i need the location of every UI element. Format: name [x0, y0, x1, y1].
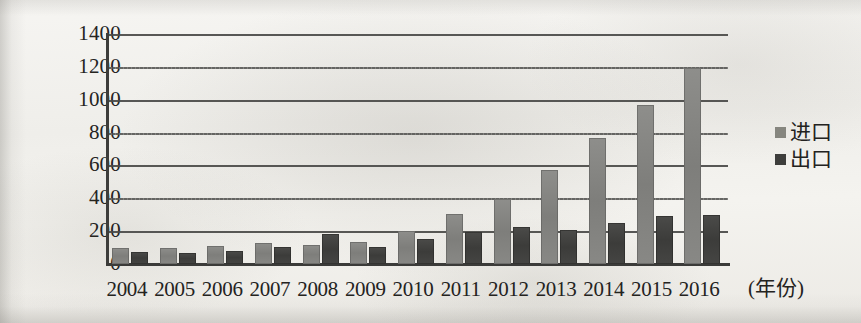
bar-export-2011[interactable]: [465, 232, 482, 264]
bar-export-2006[interactable]: [226, 251, 243, 264]
bar-import-2006[interactable]: [207, 246, 224, 264]
bar-group-2009: [346, 34, 394, 264]
bar-group-2006: [203, 34, 251, 264]
bar-group-2010: [394, 34, 442, 264]
legend-label-import: 进口: [790, 121, 832, 144]
bar-group-2008: [299, 34, 347, 264]
bar-import-2007[interactable]: [255, 243, 272, 264]
bar-import-2004[interactable]: [112, 248, 129, 264]
bar-import-2005[interactable]: [160, 248, 177, 264]
bar-import-2013[interactable]: [541, 170, 558, 264]
bar-export-2016[interactable]: [703, 215, 720, 264]
bar-group-2004: [108, 34, 156, 264]
bar-import-2011[interactable]: [446, 214, 463, 264]
bar-import-2014[interactable]: [589, 138, 606, 264]
scan-shadow-left: [0, 0, 26, 323]
bar-export-2007[interactable]: [274, 247, 291, 264]
legend-item-export[interactable]: 出口: [775, 146, 861, 173]
bar-group-2011: [442, 34, 490, 264]
chart-page: 1400120010008006004002000 20042005200620…: [0, 0, 861, 323]
bar-import-2010[interactable]: [398, 231, 415, 264]
x-tick-label: 2016: [671, 277, 727, 301]
bar-group-2016: [680, 34, 728, 264]
bar-group-2012: [490, 34, 538, 264]
bar-group-2015: [633, 34, 681, 264]
bar-import-2008[interactable]: [303, 245, 320, 264]
chart-legend: 进口 出口: [775, 119, 861, 173]
bar-export-2009[interactable]: [369, 247, 386, 264]
bar-import-2009[interactable]: [350, 242, 367, 264]
bar-group-2013: [537, 34, 585, 264]
legend-item-import[interactable]: 进口: [775, 119, 861, 146]
bar-group-2005: [156, 34, 204, 264]
bar-export-2014[interactable]: [608, 223, 625, 264]
scan-shadow-top: [0, 0, 861, 16]
bar-export-2013[interactable]: [560, 230, 577, 264]
bar-export-2008[interactable]: [322, 234, 339, 264]
bar-group-2014: [585, 34, 633, 264]
legend-label-export: 出口: [790, 148, 832, 171]
import-swatch-icon: [775, 127, 786, 138]
x-axis-title: (年份): [748, 276, 804, 300]
bar-import-2012[interactable]: [494, 199, 511, 264]
bar-import-2016[interactable]: [684, 68, 701, 264]
bar-import-2015[interactable]: [637, 105, 654, 264]
bar-export-2015[interactable]: [656, 216, 673, 264]
plot-area: [108, 34, 728, 264]
bar-export-2010[interactable]: [417, 239, 434, 264]
x-axis-tick-labels: 2004200520062007200820092010201120122013…: [108, 277, 728, 307]
bar-export-2012[interactable]: [513, 227, 530, 264]
export-swatch-icon: [775, 154, 786, 165]
bar-group-2007: [251, 34, 299, 264]
bar-export-2005[interactable]: [179, 253, 196, 265]
bar-export-2004[interactable]: [131, 252, 148, 264]
